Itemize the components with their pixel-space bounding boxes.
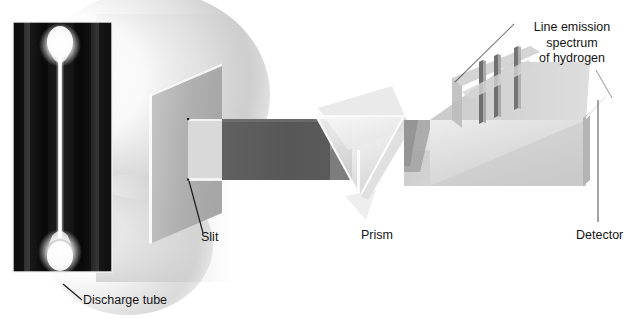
leader-spectrum-2	[596, 70, 612, 98]
label-prism: Prism	[361, 228, 393, 243]
discharge-tube-photograph	[13, 22, 112, 275]
label-slit: Slit	[201, 230, 218, 245]
label-line-emission-spectrum: Line emission spectrum of hydrogen	[516, 20, 628, 67]
label-discharge-tube: Discharge tube	[83, 293, 167, 308]
slit-plate	[149, 63, 222, 244]
label-spectrum-line-1: Line emission	[516, 20, 628, 36]
diagram-canvas: Line emission spectrum of hydrogen Detec…	[0, 0, 634, 323]
label-spectrum-line-2: spectrum	[516, 36, 628, 52]
label-spectrum-line-3: of hydrogen	[516, 51, 628, 67]
label-detector: Detector	[576, 228, 623, 243]
